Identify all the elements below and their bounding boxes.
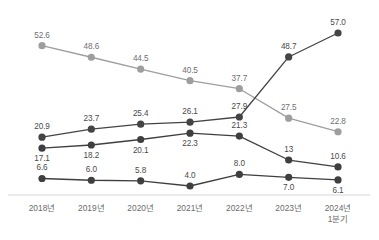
x-tick-year: 2018년 [29, 203, 56, 213]
x-axis-tick-label: 2021년 [177, 203, 204, 214]
data-point-marker[interactable] [38, 42, 45, 49]
data-point-label: 23.7 [84, 114, 100, 123]
data-point-marker[interactable] [334, 163, 341, 170]
data-point-marker[interactable] [137, 177, 144, 184]
data-point-label: 48.7 [281, 42, 297, 51]
x-tick-year: 2019년 [78, 203, 105, 213]
data-point-label: 20.1 [133, 146, 149, 155]
x-tick-year: 2021년 [177, 203, 204, 213]
data-point-marker[interactable] [88, 54, 95, 61]
data-point-label: 52.6 [34, 31, 50, 40]
data-point-label: 22.8 [330, 117, 346, 126]
data-point-label: 5.8 [135, 166, 146, 175]
data-point-marker[interactable] [334, 176, 341, 183]
data-point-marker[interactable] [285, 174, 292, 181]
data-point-label: 4.0 [184, 171, 195, 180]
data-point-label: 26.1 [182, 107, 198, 116]
data-point-label: 57.0 [330, 18, 346, 27]
data-point-marker[interactable] [88, 177, 95, 184]
data-point-marker[interactable] [236, 132, 243, 139]
data-point-label: 27.5 [281, 103, 297, 112]
data-point-marker[interactable] [186, 130, 193, 137]
data-point-label: 25.4 [133, 109, 149, 118]
data-point-marker[interactable] [38, 145, 45, 152]
x-tick-sublabel: 1분기 [325, 214, 352, 225]
x-tick-year: 2020년 [127, 203, 154, 213]
data-point-marker[interactable] [285, 156, 292, 163]
data-point-marker[interactable] [137, 65, 144, 72]
data-point-marker[interactable] [236, 85, 243, 92]
data-point-marker[interactable] [236, 113, 243, 120]
data-point-label: 40.5 [182, 66, 198, 75]
data-point-label: 6.0 [86, 165, 97, 174]
data-point-marker[interactable] [186, 119, 193, 126]
data-point-label: 48.6 [84, 42, 100, 51]
data-point-label: 27.9 [232, 102, 248, 111]
data-point-marker[interactable] [285, 115, 292, 122]
line-chart: 52.648.644.540.537.727.522.820.923.725.4… [0, 0, 379, 240]
x-axis-tick-label: 2023년 [275, 203, 302, 214]
data-point-label: 7.0 [283, 183, 294, 192]
data-point-marker[interactable] [137, 121, 144, 128]
data-point-marker[interactable] [88, 141, 95, 148]
data-point-marker[interactable] [38, 175, 45, 182]
data-point-label: 20.9 [34, 122, 50, 131]
data-point-marker[interactable] [38, 134, 45, 141]
x-axis-tick-label: 2022년 [226, 203, 253, 214]
data-point-label: 22.3 [182, 139, 198, 148]
x-tick-year: 2024년 [325, 203, 352, 213]
data-point-marker[interactable] [186, 182, 193, 189]
data-point-marker[interactable] [285, 53, 292, 60]
data-point-label: 18.2 [84, 151, 100, 160]
x-tick-year: 2022년 [226, 203, 253, 213]
data-point-label: 21.3 [232, 121, 248, 130]
x-axis-tick-label: 2020년 [127, 203, 154, 214]
data-point-label: 17.1 [34, 154, 50, 163]
data-point-marker[interactable] [137, 136, 144, 143]
data-point-marker[interactable] [236, 171, 243, 178]
data-point-label: 44.5 [133, 54, 149, 63]
data-point-label: 13 [284, 145, 293, 154]
data-point-marker[interactable] [334, 128, 341, 135]
x-axis-tick-label: 2024년1분기 [325, 203, 352, 225]
data-point-label: 6.6 [36, 163, 47, 172]
data-point-label: 8.0 [234, 159, 245, 168]
x-axis-tick-label: 2019년 [78, 203, 105, 214]
data-point-label: 37.7 [232, 74, 248, 83]
x-axis-tick-label: 2018년 [29, 203, 56, 214]
data-point-label: 10.6 [330, 152, 346, 161]
x-tick-year: 2023년 [275, 203, 302, 213]
data-point-marker[interactable] [186, 77, 193, 84]
data-point-marker[interactable] [334, 29, 341, 36]
data-point-label: 6.1 [332, 186, 343, 195]
data-point-marker[interactable] [88, 126, 95, 133]
